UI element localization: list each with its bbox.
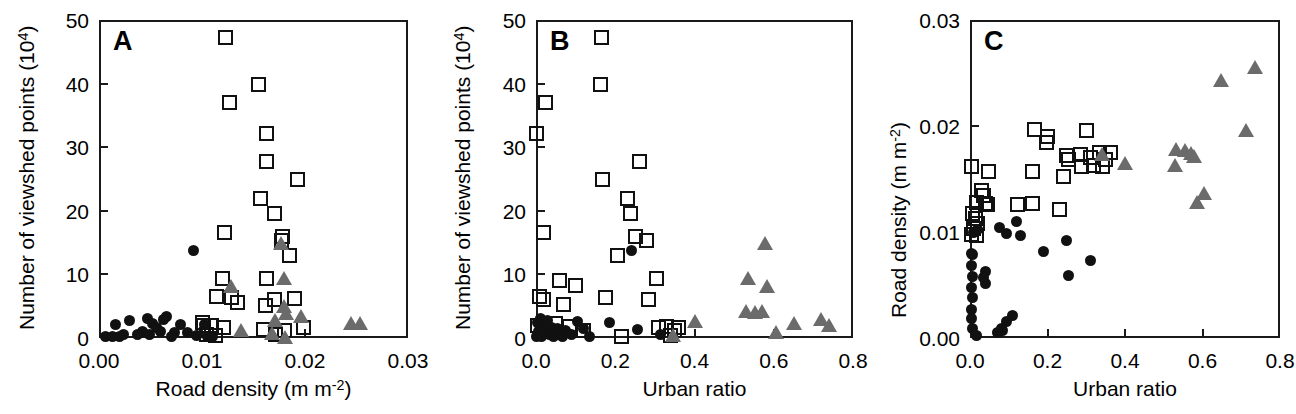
data-point-circle	[980, 278, 991, 289]
data-point-square	[1025, 164, 1040, 179]
data-point-triangle	[1247, 60, 1263, 74]
data-point-circle	[1063, 270, 1074, 281]
data-point-square	[980, 197, 995, 212]
data-point-square	[964, 159, 979, 174]
figure-container: A010203040500.000.010.020.03Road density…	[0, 0, 1296, 414]
data-point-triangle	[1186, 149, 1202, 163]
data-point-triangle	[1094, 147, 1110, 161]
data-point-circle	[1061, 235, 1072, 246]
data-point-circle	[967, 292, 978, 303]
data-point-square	[1056, 169, 1071, 184]
data-point-circle	[967, 271, 978, 282]
data-point-circle	[992, 327, 1003, 338]
data-point-circle	[1001, 228, 1012, 239]
data-point-circle	[968, 227, 979, 238]
data-point-circle	[967, 323, 978, 334]
data-point-circle	[966, 282, 977, 293]
data-point-triangle	[1167, 158, 1183, 172]
data-layer-c	[0, 0, 1296, 414]
data-point-circle	[966, 260, 977, 271]
data-point-triangle	[1213, 73, 1229, 87]
data-point-square	[1079, 123, 1094, 138]
data-point-circle	[1038, 246, 1049, 257]
data-point-square	[981, 164, 996, 179]
data-point-square	[1025, 196, 1040, 211]
data-point-triangle	[1189, 195, 1205, 209]
data-point-circle	[1015, 230, 1026, 241]
data-point-circle	[1011, 216, 1022, 227]
data-point-square	[1039, 135, 1054, 150]
data-point-circle	[1085, 255, 1096, 266]
data-point-triangle	[1238, 123, 1254, 137]
panel-c: C0.000.010.020.030.00.20.40.60.8Urban ra…	[0, 0, 1296, 414]
data-point-triangle	[1117, 156, 1133, 170]
data-point-circle	[967, 249, 978, 260]
data-point-square	[1010, 197, 1025, 212]
data-point-square	[1052, 202, 1067, 217]
